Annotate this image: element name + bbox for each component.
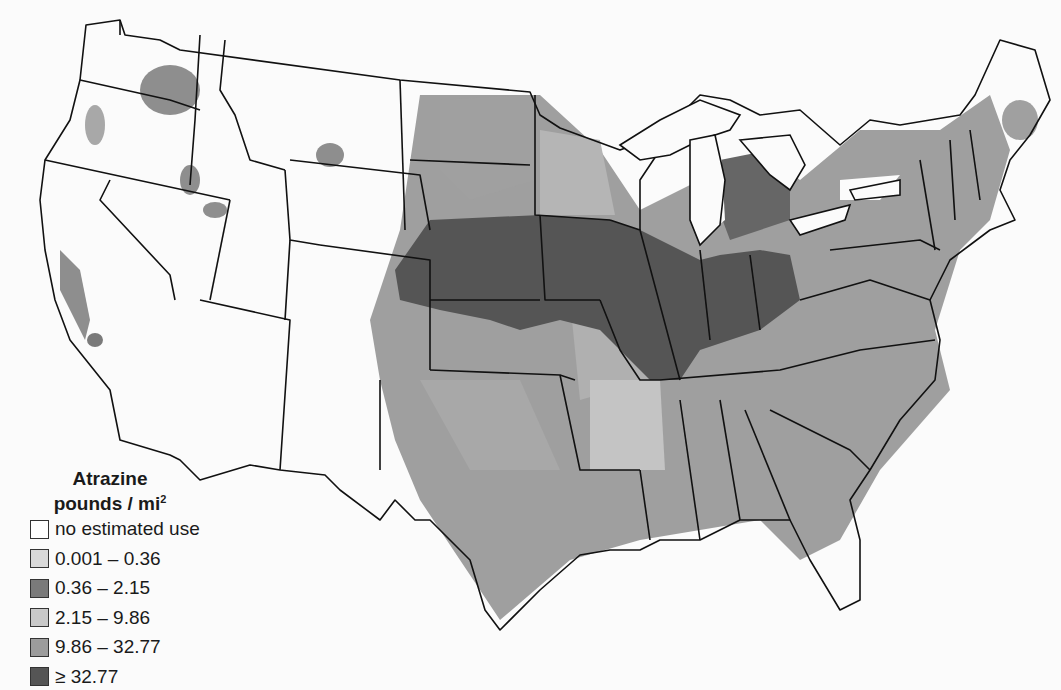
legend-item-class-3: 2.15 – 9.86 [30, 603, 200, 633]
legend-title-line2: pounds / mi2 [30, 489, 190, 514]
legend-item-class-4: 9.86 – 32.77 [30, 632, 200, 662]
lake-superior [620, 100, 740, 160]
legend-label: 0.001 – 0.36 [55, 548, 161, 570]
map-legend: Atrazine pounds / mi2 no estimated use 0… [30, 468, 200, 690]
legend-label: 2.15 – 9.86 [55, 607, 150, 629]
legend-title: Atrazine pounds / mi2 [30, 468, 190, 514]
legend-item-class-1: 0.001 – 0.36 [30, 544, 200, 574]
legend-swatch [30, 608, 49, 627]
legend-label: 9.86 – 32.77 [55, 636, 161, 658]
legend-item-class-5: ≥ 32.77 [30, 662, 200, 690]
legend-swatch [30, 579, 49, 598]
legend-swatch [30, 549, 49, 568]
legend-label: ≥ 32.77 [55, 666, 118, 688]
legend-swatch [30, 667, 49, 686]
legend-title-line1: Atrazine [30, 468, 190, 489]
legend-item-no-use: no estimated use [30, 514, 200, 544]
legend-swatch [30, 520, 49, 539]
shading-layer [60, 65, 1038, 620]
legend-swatch [30, 638, 49, 657]
legend-label: no estimated use [55, 518, 200, 540]
legend-item-class-2: 0.36 – 2.15 [30, 573, 200, 603]
legend-label: 0.36 – 2.15 [55, 577, 150, 599]
